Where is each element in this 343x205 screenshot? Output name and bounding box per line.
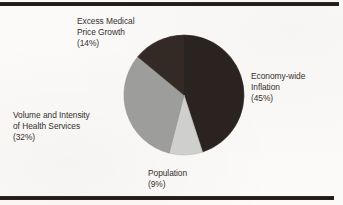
- slice-label-line-1: Excess Medical: [77, 16, 134, 27]
- slice-label-percent: (9%): [148, 179, 187, 190]
- slice-label-percent: (32%): [13, 132, 90, 143]
- slice-label-line-2: Price Growth: [77, 27, 134, 38]
- slice-label-volume-and-intensity: Volume and Intensity of Health Services …: [13, 110, 90, 144]
- slice-label-excess-medical-price-growth: Excess Medical Price Growth (14%): [77, 16, 134, 50]
- slice-label-line-2: of Health Services: [13, 121, 90, 132]
- slice-label-percent: (45%): [251, 93, 305, 104]
- slice-label-percent: (14%): [77, 38, 134, 49]
- slice-label-economy-wide-inflation: Economy-wide Inflation (45%): [251, 71, 305, 105]
- slice-label-population: Population (9%): [148, 168, 187, 190]
- slice-label-line-1: Population: [148, 168, 187, 179]
- slice-label-line-1: Economy-wide: [251, 71, 305, 82]
- slice-label-line-1: Volume and Intensity: [13, 110, 90, 121]
- pie-chart-figure: Excess Medical Price Growth (14%) Econom…: [0, 0, 343, 205]
- pie-slices: [124, 35, 244, 155]
- slice-label-line-2: Inflation: [251, 82, 305, 93]
